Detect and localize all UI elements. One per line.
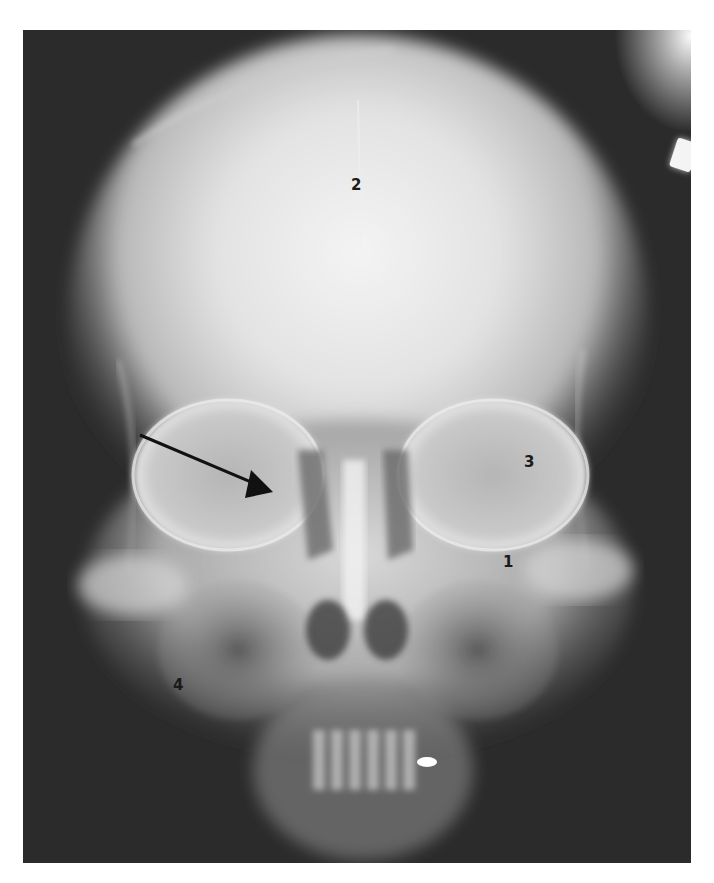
film-flare — [601, 30, 691, 150]
label-1: 1 — [503, 555, 513, 570]
skull-radiograph — [23, 30, 691, 863]
label-3: 3 — [524, 455, 534, 470]
label-2: 2 — [351, 178, 361, 193]
label-4: 4 — [173, 678, 183, 693]
xray-frame: 1 2 3 4 — [23, 30, 691, 863]
